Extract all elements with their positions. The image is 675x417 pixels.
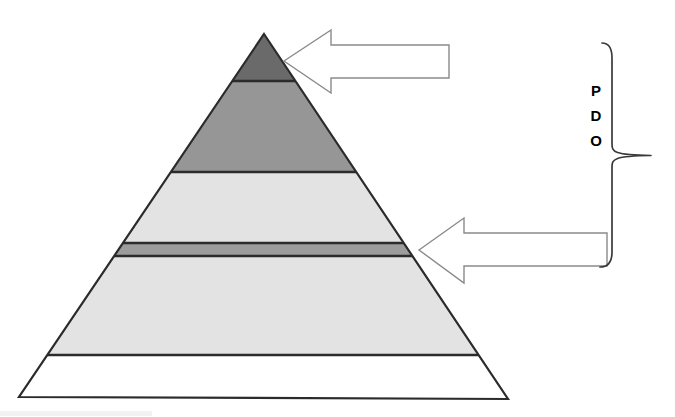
- pdo-letter-o: O: [585, 128, 607, 153]
- pyramid-bands: [0, 30, 675, 403]
- pyramid-band-lower: [0, 256, 675, 355]
- pyramid-diagram-svg: [0, 0, 675, 417]
- pdo-letter-p: P: [585, 78, 607, 103]
- pyramid-band-base: [0, 355, 675, 403]
- pdo-letter-d: D: [585, 103, 607, 128]
- pdo-label: P D O: [585, 78, 607, 153]
- callout-arrow-lower: [419, 218, 607, 283]
- scan-edge-artifact: [0, 411, 152, 416]
- pyramid-band-upper: [0, 81, 675, 172]
- figure-canvas: P D O: [0, 0, 675, 417]
- callout-arrow-upper: [284, 30, 449, 93]
